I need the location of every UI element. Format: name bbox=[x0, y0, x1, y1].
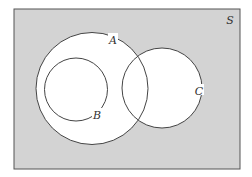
venn-diagram: A B C S bbox=[0, 0, 252, 177]
label-a: A bbox=[108, 34, 117, 47]
label-c: C bbox=[195, 85, 204, 98]
label-s: S bbox=[226, 14, 234, 27]
label-b: B bbox=[92, 109, 101, 122]
